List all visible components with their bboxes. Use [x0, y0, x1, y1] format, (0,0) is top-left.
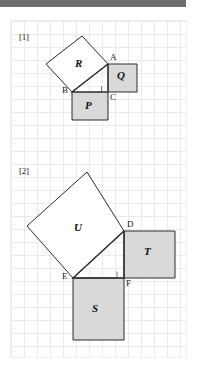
vertex-label-E: E [62, 271, 68, 281]
figure-2 [27, 172, 175, 340]
square-label-U: U [74, 221, 82, 233]
vertex-label-C: C [110, 92, 116, 102]
worksheet-page: [1] A B C R Q P [2] D E F U T S [0, 0, 200, 379]
square-label-P: P [85, 99, 92, 111]
right-angle-marker-C [102, 86, 109, 92]
figure-1-tag: [1] [19, 32, 29, 42]
vertex-label-A: A [110, 52, 117, 62]
square-label-S: S [92, 302, 98, 314]
vertex-label-D: D [127, 219, 134, 229]
figure-2-tag: [2] [19, 166, 29, 176]
square-label-T: T [144, 245, 151, 257]
square-S [73, 278, 124, 340]
square-label-R: R [75, 57, 82, 69]
geometry-figures [0, 0, 200, 379]
vertex-label-F: F [126, 278, 131, 288]
right-angle-marker-F [117, 272, 124, 279]
square-label-Q: Q [117, 69, 125, 81]
vertex-label-B: B [62, 85, 68, 95]
